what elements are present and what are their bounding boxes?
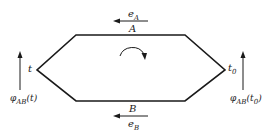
- t-subscript: 0: [232, 68, 236, 76]
- e-subscript: A: [134, 14, 139, 22]
- hexagon-loop: [37, 35, 225, 101]
- left-phase-label: φAB(t): [10, 94, 37, 106]
- phi-argument-close: ): [258, 93, 262, 103]
- right-vertex-label: t0: [228, 63, 237, 76]
- phi-argument-open: (t: [247, 93, 254, 103]
- top-arrow-label: eA: [128, 9, 139, 22]
- bottom-arrow-label: eB: [128, 119, 139, 132]
- right-phase-label: φAB(t0): [230, 94, 262, 106]
- phi-argument: (t): [27, 93, 38, 103]
- e-subscript: B: [134, 124, 139, 132]
- phi-subscript: AB: [236, 98, 246, 106]
- right-phase-arrow: [241, 51, 246, 90]
- bottom-edge-label: B: [129, 104, 136, 114]
- left-vertex-label: t: [28, 64, 32, 74]
- rotation-arrow-icon: [120, 47, 147, 60]
- top-edge-label: A: [129, 24, 136, 34]
- phi-subscript: AB: [16, 98, 26, 106]
- left-phase-arrow: [18, 51, 23, 90]
